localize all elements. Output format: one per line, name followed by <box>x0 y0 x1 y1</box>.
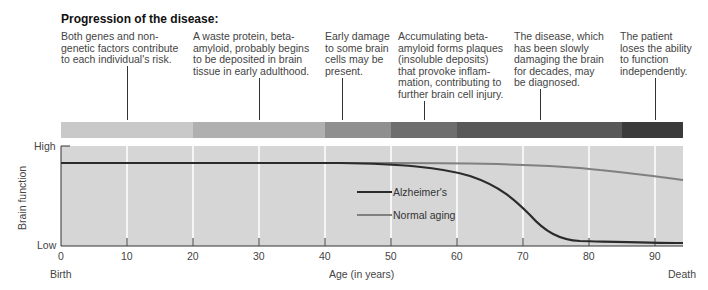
x-tick-50: 50 <box>385 250 397 262</box>
x-tick-30: 30 <box>253 250 265 262</box>
y-axis-label: Brain function <box>16 166 28 230</box>
x-tick-40: 40 <box>319 250 331 262</box>
y-low-label: Low <box>37 239 56 251</box>
x-start-label: Birth <box>50 268 72 280</box>
legend-label-normal: Normal aging <box>393 209 455 221</box>
x-tick-80: 80 <box>583 250 595 262</box>
x-axis-label: Age (in years) <box>329 268 394 280</box>
x-tick-70: 70 <box>517 250 529 262</box>
y-high-label: High <box>34 140 56 152</box>
x-tick-20: 20 <box>187 250 199 262</box>
legend-label-alzheimers: Alzheimer's <box>393 186 447 198</box>
x-tick-60: 60 <box>451 250 463 262</box>
line-chart <box>0 0 708 290</box>
x-tick-0: 0 <box>58 250 64 262</box>
x-tick-90: 90 <box>649 250 661 262</box>
x-end-label: Death <box>668 268 696 280</box>
x-tick-10: 10 <box>121 250 133 262</box>
